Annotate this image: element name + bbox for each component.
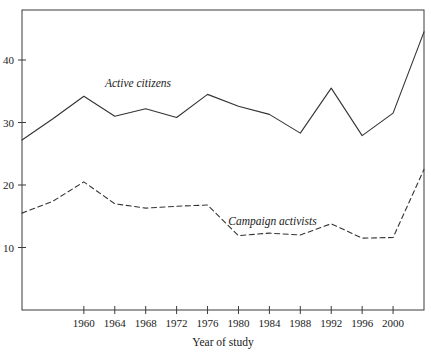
- x-tick-label: 1992: [320, 317, 342, 329]
- x-tick-label: 1988: [289, 317, 311, 329]
- series-label-1: Active citizens: [105, 77, 171, 89]
- y-tick-label: 10: [0, 242, 14, 254]
- x-tick-label: 1968: [135, 317, 157, 329]
- x-tick-label: 1964: [104, 317, 126, 329]
- y-tick-label: 40: [0, 54, 14, 66]
- series-label-2: Campaign activists: [228, 215, 317, 227]
- x-tick-label: 1996: [351, 317, 373, 329]
- x-tick-label: 1960: [73, 317, 95, 329]
- x-tick-label: 1972: [166, 317, 188, 329]
- chart-figure: 10203040 1960196419681972197619801984198…: [0, 0, 431, 358]
- plot-frame: [22, 10, 424, 310]
- x-tick-label: 1976: [197, 317, 219, 329]
- x-axis-title: Year of study: [192, 336, 253, 348]
- y-tick-label: 30: [0, 117, 14, 129]
- y-tick-label: 20: [0, 179, 14, 191]
- chart-plot-area: [0, 0, 431, 358]
- x-tick-label: 1984: [258, 317, 280, 329]
- x-tick-label: 2000: [382, 317, 404, 329]
- x-tick-label: 1980: [227, 317, 249, 329]
